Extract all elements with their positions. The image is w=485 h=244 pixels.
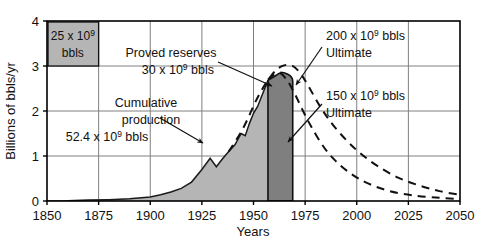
- x-tick-label: 2050: [446, 208, 475, 223]
- y-tick-label: 4: [32, 14, 39, 29]
- x-tick-label: 1925: [187, 208, 216, 223]
- cumulative-production-label-line3: 52.4 x 109 bbls: [66, 129, 149, 144]
- oil-production-chart: 25 x 109bbls 01234 185018751900192519501…: [0, 0, 485, 244]
- ultimate-150-label-line2: Ultimate: [326, 106, 372, 120]
- x-tick-label: 1850: [33, 208, 62, 223]
- proved-reserves-label-line1: Proved reserves: [125, 46, 216, 60]
- cumulative-production-label-line1: Cumulative: [115, 96, 178, 110]
- y-tick-label: 0: [32, 194, 39, 209]
- y-tick-label: 1: [32, 149, 39, 164]
- proved-reserves-label-line2: 30 x 109 bbls: [142, 62, 214, 77]
- x-axis-ticks: 185018751900192519501975200020252050: [33, 201, 475, 223]
- y-axis-title: Billions of bbls/yr: [3, 62, 18, 160]
- ultimate-200-label-line2: Ultimate: [326, 46, 372, 60]
- x-tick-label: 1950: [239, 208, 268, 223]
- ultimate-200-label-line1: 200 x 109 bbls: [326, 28, 405, 43]
- x-tick-label: 1875: [84, 208, 113, 223]
- chart-figure: 25 x 109bbls 01234 185018751900192519501…: [0, 0, 485, 244]
- y-tick-label: 3: [32, 59, 39, 74]
- x-tick-label: 2025: [394, 208, 423, 223]
- y-tick-label: 2: [32, 104, 39, 119]
- proved-reserves-block: [268, 72, 293, 201]
- x-tick-label: 1900: [136, 208, 165, 223]
- x-axis-title: Years: [237, 224, 270, 239]
- reserves-callout-box: 25 x 109bbls: [48, 22, 99, 66]
- x-tick-label: 2000: [342, 208, 371, 223]
- x-tick-label: 1975: [291, 208, 320, 223]
- reserves-box-line1: 25 x 109: [51, 28, 95, 43]
- reserves-box-line2: bbls: [62, 46, 84, 60]
- ultimate-150-label-line1: 150 x 109 bbls: [326, 88, 405, 103]
